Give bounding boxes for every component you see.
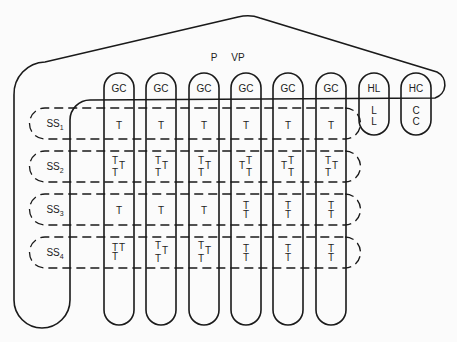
hc-c-1: C: [401, 105, 431, 116]
hc-c-2: C: [401, 116, 431, 127]
ss3-gc2-t: T: [146, 205, 176, 216]
ss1-gc5-t: T: [273, 120, 303, 131]
hc-header: HC: [401, 83, 431, 94]
p-label: P: [208, 52, 220, 63]
gc-column-1: [104, 73, 134, 325]
ss4-row-outline: [30, 237, 361, 268]
ss1-gc6-t: T: [316, 120, 346, 131]
gc-header-6: GC: [316, 83, 346, 94]
ss2-label: SS2: [40, 161, 70, 176]
gc-column-3: [189, 73, 219, 325]
ss3-gc3-t: T: [189, 205, 219, 216]
ss1-gc1-t: T: [104, 120, 134, 131]
gc-column-6: [316, 73, 346, 325]
gc-header-4: GC: [231, 83, 261, 94]
ss1-label: SS1: [40, 118, 70, 133]
ss4-label: SS4: [40, 247, 70, 262]
ss1-gc3-t: T: [189, 120, 219, 131]
ss1-gc4-t: T: [231, 120, 261, 131]
gc-column-5: [273, 73, 303, 325]
ss3-label: SS3: [40, 204, 70, 219]
gc-column-2: [146, 73, 176, 325]
gc-column-4: [231, 73, 261, 325]
gc-header-1: GC: [104, 83, 134, 94]
ss3-gc1-t: T: [104, 205, 134, 216]
ss2-row-outline: [29, 151, 360, 182]
ss1-gc2-t: T: [146, 120, 176, 131]
gc-header-3: GC: [189, 83, 219, 94]
hl-l-1: L: [359, 105, 389, 116]
gc-header-2: GC: [146, 83, 176, 94]
gc-header-5: GC: [273, 83, 303, 94]
hl-header: HL: [359, 83, 389, 94]
hl-l-2: L: [359, 116, 389, 127]
vp-label: VP: [228, 52, 248, 63]
